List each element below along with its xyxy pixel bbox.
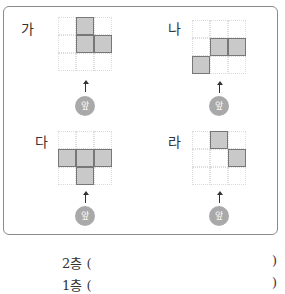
front-badge: 앞 <box>209 206 229 226</box>
shaded-cell <box>192 56 210 74</box>
grid-ga <box>58 17 112 71</box>
grid-cell <box>94 131 112 149</box>
front-badge: 앞 <box>75 96 95 116</box>
grid-cell <box>192 167 210 185</box>
front-badge: 앞 <box>75 206 95 226</box>
figure-label-da: 다 <box>35 131 48 151</box>
grid-cell <box>94 53 112 71</box>
grid-da <box>58 131 112 185</box>
grid-cell <box>76 131 94 149</box>
shaded-cell <box>228 149 246 167</box>
grid-cell <box>192 149 210 167</box>
figure-label-na: 나 <box>168 18 181 38</box>
shaded-cell <box>94 35 112 53</box>
grid-cell <box>192 20 210 38</box>
arrow-up-icon <box>85 83 86 92</box>
arrow-up-icon <box>85 194 86 203</box>
grid-ra <box>192 131 246 185</box>
answer-prefix-floor2: 2층 ( <box>62 253 91 272</box>
shaded-cell <box>210 131 228 149</box>
figure-label-ra: 라 <box>168 131 181 151</box>
arrow-up-icon <box>219 194 220 203</box>
grid-cell <box>228 20 246 38</box>
arrow-up-icon <box>219 84 220 93</box>
shaded-cell <box>58 149 76 167</box>
answer-prefix-floor1: 1층 ( <box>62 275 91 294</box>
grid-na <box>192 20 246 74</box>
grid-cell <box>58 17 76 35</box>
grid-cell <box>228 167 246 185</box>
grid-cell <box>192 131 210 149</box>
front-badge: 앞 <box>209 96 229 116</box>
shaded-cell <box>76 35 94 53</box>
shaded-cell <box>94 149 112 167</box>
shaded-cell <box>76 167 94 185</box>
grid-cell <box>58 131 76 149</box>
shaded-cell <box>228 38 246 56</box>
figure-label-ga: 가 <box>21 18 34 38</box>
grid-cell <box>58 167 76 185</box>
grid-cell <box>210 56 228 74</box>
grid-cell <box>94 17 112 35</box>
shaded-cell <box>76 17 94 35</box>
grid-cell <box>210 167 228 185</box>
shaded-cell <box>210 38 228 56</box>
answer-suffix-floor2: ) <box>272 253 277 268</box>
grid-cell <box>228 131 246 149</box>
grid-cell <box>192 38 210 56</box>
grid-cell <box>58 35 76 53</box>
shaded-cell <box>76 149 94 167</box>
grid-cell <box>76 53 94 71</box>
answer-suffix-floor1: ) <box>272 275 277 290</box>
grid-cell <box>58 53 76 71</box>
grid-cell <box>228 56 246 74</box>
grid-cell <box>210 149 228 167</box>
grid-cell <box>94 167 112 185</box>
grid-cell <box>210 20 228 38</box>
